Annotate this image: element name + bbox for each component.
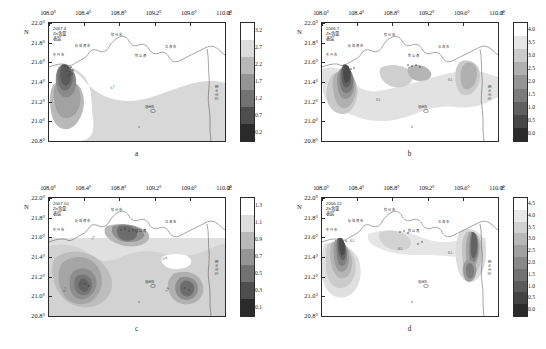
svg-text:北 海 市: 北 海 市 (165, 44, 176, 49)
svg-text:雷 州 半 岛: 雷 州 半 岛 (214, 85, 219, 100)
x-tick-mark (428, 198, 429, 201)
y-tick-label: 21.8° (304, 213, 318, 220)
colorbar-segment (241, 198, 254, 215)
svg-text:防 城 港 市: 防 城 港 市 (75, 43, 90, 48)
y-tick-label: 21.0° (304, 292, 318, 299)
x-tick-label: 108.0° (313, 9, 329, 16)
x-tick-label: 108.0° (313, 184, 329, 191)
x-axis-unit-c: E (228, 184, 232, 191)
y-tick-mark (322, 23, 325, 24)
y-tick-label: 20.8° (304, 137, 318, 144)
x-tick-mark (428, 23, 429, 26)
panel-annotation-d: 2006.12 Zn含量 表层 (326, 201, 342, 217)
svg-text:东 兴 市: 东 兴 市 (53, 227, 64, 232)
y-tick-mark (322, 296, 325, 297)
y-tick-mark (49, 23, 52, 24)
panel-annotation-c: 2007.10 Zn含量 表层 (53, 201, 69, 217)
y-axis-unit-a: N (24, 28, 29, 35)
colorbar-tick-label: 0.5 (255, 270, 262, 276)
y-tick-label: 21.2° (304, 97, 318, 104)
x-axis-unit-b: E (501, 9, 505, 16)
y-tick-mark (322, 102, 325, 103)
colorbar-ticks-a: 3.22.72.21.71.20.70.2 (255, 22, 273, 140)
x-tick-label: 109.2° (419, 9, 435, 16)
x-tick-mark (225, 23, 226, 26)
y-tick-mark (49, 218, 52, 219)
y-tick-label: 21.0° (31, 117, 45, 124)
svg-text:钦 州 市: 钦 州 市 (384, 32, 395, 37)
y-tick-label: 21.2° (304, 272, 318, 279)
svg-text:钦 州 市: 钦 州 市 (384, 207, 395, 212)
x-axis-d: 108.0°108.4°108.8°109.2°109.6°110.0° (321, 184, 497, 196)
x-tick-label: 109.2° (146, 184, 162, 191)
y-tick-mark (322, 277, 325, 278)
colorbar-tick-label: 0.0 (528, 306, 535, 312)
x-tick-label: 108.8° (384, 184, 400, 191)
svg-text:北 海 市: 北 海 市 (165, 219, 176, 224)
x-axis-a: 108.0°108.4°108.8°109.2°109.6°110.0° (48, 9, 224, 21)
plot-area-a: 0.7 钦 州 市 防 城 港 市 东 兴 市 北 海 市 铁 山 港 涠洲岛 (48, 22, 226, 142)
y-tick-label: 22.0° (304, 194, 318, 201)
colorbar-segment (241, 107, 254, 124)
x-tick-mark (84, 198, 85, 201)
colorbar-segment (514, 89, 527, 102)
colorbar-tick-label: 2.2 (255, 61, 262, 67)
colorbar-segment (514, 304, 527, 316)
svg-text:0.5: 0.5 (448, 78, 453, 82)
map-a: 0.7 钦 州 市 防 城 港 市 东 兴 市 北 海 市 铁 山 港 涠洲岛 (49, 23, 225, 141)
y-tick-label: 21.4° (31, 78, 45, 85)
colorbar-tick-label: 2.5 (528, 65, 535, 71)
x-tick-mark (190, 23, 191, 26)
colorbar-tick-label: 3.5 (528, 224, 535, 230)
panel-annotation-b: 2006.7 Zn含量 表层 (326, 26, 339, 42)
svg-text:铁 山 港: 铁 山 港 (408, 53, 420, 58)
colorbar-segment (241, 74, 254, 91)
x-tick-mark (84, 23, 85, 26)
colorbar-segment (514, 49, 527, 62)
colorbar-tick-label: 3.0 (528, 235, 535, 241)
colorbar-b (513, 22, 528, 142)
y-tick-label: 21.6° (304, 58, 318, 65)
svg-text:东 兴 市: 东 兴 市 (326, 227, 337, 232)
colorbar-segment (241, 265, 254, 282)
colorbar-tick-label: 0.7 (255, 253, 262, 259)
colorbar-segment (241, 57, 254, 74)
colorbar-tick-label: 1.0 (528, 104, 535, 110)
y-tick-label: 21.4° (304, 78, 318, 85)
y-tick-label: 21.0° (304, 117, 318, 124)
colorbar-segment (241, 90, 254, 107)
y-tick-mark (49, 198, 52, 199)
panel-annotation-a: 2007.4 Zn含量 表层 (53, 26, 66, 42)
y-tick-label: 21.0° (31, 292, 45, 299)
x-axis-c: 108.0°108.4°108.8°109.2°109.6°110.0° (48, 184, 224, 196)
svg-text:东 兴 市: 东 兴 市 (53, 52, 64, 57)
x-tick-mark (392, 198, 393, 201)
y-axis-b: 22.0°21.8°21.6°21.4°21.2°21.0°20.8° (283, 22, 321, 140)
y-tick-mark (322, 257, 325, 258)
colorbar-tick-label: 2.7 (255, 44, 262, 50)
x-tick-label: 108.4° (75, 9, 91, 16)
y-axis-c: 22.0°21.8°21.6°21.4°21.2°21.0°20.8° (10, 197, 48, 315)
colorbar-segment (241, 249, 254, 266)
y-tick-mark (322, 237, 325, 238)
y-tick-label: 21.6° (304, 233, 318, 240)
y-tick-mark (49, 62, 52, 63)
x-tick-label: 109.6° (181, 9, 197, 16)
colorbar-tick-label: 3.2 (255, 27, 262, 33)
svg-text:北 海 市: 北 海 市 (438, 44, 449, 49)
svg-text:0.5: 0.5 (448, 251, 453, 255)
svg-text:涠洲岛: 涠洲岛 (418, 104, 427, 109)
y-tick-mark (322, 198, 325, 199)
svg-text:涠洲岛: 涠洲岛 (418, 279, 427, 284)
colorbar-segment (514, 257, 527, 269)
colorbar-tick-label: 0.1 (255, 304, 262, 310)
x-axis-b: 108.0°108.4°108.8°109.2°109.6°110.0° (321, 9, 497, 21)
x-tick-mark (392, 23, 393, 26)
svg-text:0.5: 0.5 (398, 247, 403, 251)
colorbar-segment (514, 292, 527, 304)
y-tick-label: 21.6° (31, 58, 45, 65)
colorbar-tick-label: 1.7 (255, 78, 262, 84)
panel-c: 108.0°108.4°108.8°109.2°109.6°110.0° E 2… (0, 175, 273, 349)
colorbar-segment (514, 281, 527, 293)
x-tick-mark (119, 198, 120, 201)
